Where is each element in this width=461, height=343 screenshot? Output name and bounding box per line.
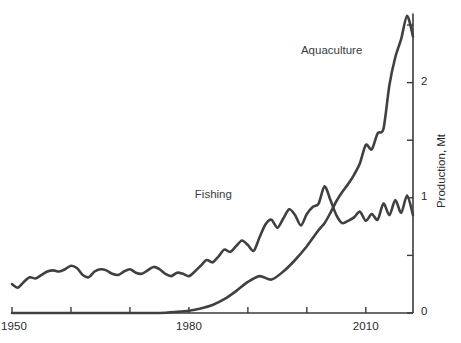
series-line-fishing xyxy=(12,186,413,287)
x-axis-tick-label-1980: 1980 xyxy=(176,320,202,332)
chart-axes xyxy=(12,14,413,314)
series-label-aquaculture: Aquaculture xyxy=(301,44,362,56)
chart-series xyxy=(12,16,413,313)
x-axis-tick-label-1950: 1950 xyxy=(1,320,27,332)
chart-container: 1950 1980 2010 0 1 2 Production, Mt Fish… xyxy=(0,0,461,343)
y-axis-tick-label-1: 1 xyxy=(421,190,428,202)
series-label-fishing: Fishing xyxy=(195,188,232,200)
y-axis-tick-label-0: 0 xyxy=(421,305,428,317)
y-axis-title: Production, Mt xyxy=(435,116,447,226)
x-axis-tick-label-2010: 2010 xyxy=(353,320,379,332)
y-axis-title-wrapper: Production, Mt xyxy=(431,120,451,230)
y-axis-tick-label-2: 2 xyxy=(421,75,428,87)
chart-plot-area xyxy=(0,0,461,343)
series-line-aquaculture xyxy=(12,16,413,313)
